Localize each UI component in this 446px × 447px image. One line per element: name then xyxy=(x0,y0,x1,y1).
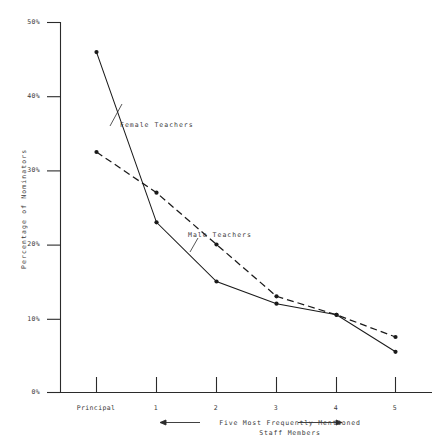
data-point xyxy=(214,242,218,246)
data-point xyxy=(154,191,158,195)
series-points-male-teachers xyxy=(94,150,397,339)
y-tick-label-0: 0% xyxy=(10,388,40,396)
y-axis-ticks xyxy=(47,23,61,393)
y-tick-label-20: 20% xyxy=(10,240,40,248)
y-tick-label-50: 50% xyxy=(10,18,40,26)
data-point xyxy=(214,279,218,283)
x-tick-label-2: 2 xyxy=(186,404,246,412)
data-point xyxy=(94,150,98,154)
x-tick-label-5: 5 xyxy=(365,404,425,412)
y-tick-label-40: 40% xyxy=(10,92,40,100)
data-point xyxy=(274,294,278,298)
male-label-leader-line xyxy=(190,238,198,252)
y-tick-label-30: 30% xyxy=(10,166,40,174)
series-line-female-teachers xyxy=(97,52,396,352)
data-point xyxy=(334,313,338,317)
x-axis-ticks xyxy=(97,377,396,393)
data-point xyxy=(94,50,98,54)
chart-plot-area xyxy=(0,0,446,447)
series-annotation-male-teachers: Male Teachers xyxy=(188,231,252,239)
series-points-female-teachers xyxy=(94,50,397,354)
data-point xyxy=(393,350,397,354)
x-tick-label-4: 4 xyxy=(306,404,366,412)
data-point xyxy=(393,335,397,339)
x-tick-label-1: 1 xyxy=(126,404,186,412)
x-tick-label-principal: Principal xyxy=(66,404,126,412)
y-tick-label-10: 10% xyxy=(10,315,40,323)
chart-container: Percentage of Nominators 50% 40% 30% 20%… xyxy=(0,0,446,447)
x-axis-caption-line-1: Five Most Frequently Mentioned xyxy=(150,419,430,427)
data-point xyxy=(154,220,158,224)
series-annotation-female-teachers: Female Teachers xyxy=(120,121,194,129)
x-axis-caption-line-2: Staff Members xyxy=(150,429,430,437)
data-point xyxy=(274,302,278,306)
x-tick-label-3: 3 xyxy=(246,404,306,412)
